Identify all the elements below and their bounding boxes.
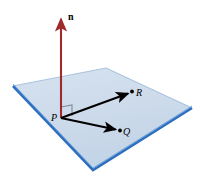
normal-vector-label: n (68, 12, 74, 22)
point-r-label: R (136, 88, 142, 98)
point-q-label: Q (123, 127, 130, 137)
plane-shape (13, 68, 192, 170)
point-p-label: P (51, 113, 57, 123)
point-q-dot (118, 129, 122, 133)
point-r-dot (130, 90, 134, 94)
plane-normal-vector-diagram (0, 0, 201, 183)
figure-container: n P Q R (0, 0, 201, 183)
plane-fill (13, 68, 192, 170)
